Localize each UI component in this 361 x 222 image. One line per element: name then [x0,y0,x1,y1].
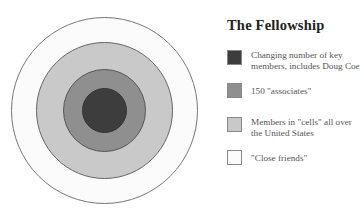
ring-key-members [83,89,127,133]
legend-label: "Close friends" [251,153,361,164]
legend-swatch-medium [227,83,242,98]
concentric-circles-diagram [0,0,220,222]
legend-label: 150 "associates" [251,86,361,97]
legend-swatch-white [227,150,242,165]
legend-label: Members in "cells" all over the United S… [251,117,361,138]
legend-label: Changing number of key members, includes… [251,50,361,71]
legend-swatch-dark [227,50,242,65]
legend-swatch-light [227,117,242,132]
diagram-title: The Fellowship [227,17,324,34]
